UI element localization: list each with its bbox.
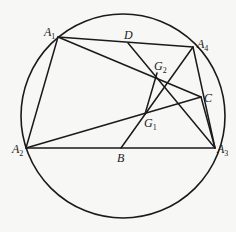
label-g2: G2	[154, 59, 167, 75]
label-a2: A2	[11, 142, 23, 158]
label-b: B	[117, 151, 125, 165]
label-d: D	[123, 28, 133, 42]
segment-a2-c	[26, 97, 201, 148]
label-a3: A3	[216, 142, 228, 158]
label-c: C	[204, 91, 213, 105]
label-a1: A1	[43, 25, 55, 41]
segment-g2-g1	[145, 73, 157, 114]
geometry-diagram: A1A2A3A4BCDG1G2	[0, 0, 236, 232]
segment-d-a3	[128, 43, 215, 148]
segments	[26, 37, 215, 148]
circumcircle	[21, 14, 225, 218]
label-g1: G1	[144, 116, 157, 132]
label-a4: A4	[196, 37, 208, 53]
